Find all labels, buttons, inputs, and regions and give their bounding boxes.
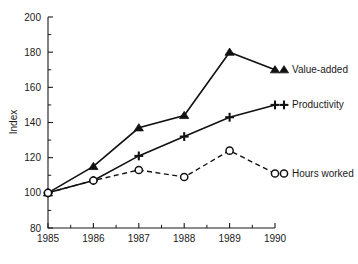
chart-page: 80100120140160180200 1985198619871988198… [0, 0, 358, 264]
x-tick-label: 1985 [37, 233, 60, 244]
legend-marker-triangle [279, 66, 288, 73]
x-tick-label: 1986 [82, 233, 105, 244]
marker-circle [90, 177, 97, 184]
y-tick-label: 180 [24, 47, 41, 58]
y-axis-tick-labels: 80100120140160180200 [24, 12, 41, 234]
x-tick-label: 1989 [218, 233, 241, 244]
x-axis-tick-labels: 198519861987198819891990 [37, 233, 287, 244]
series-line-0 [48, 52, 275, 193]
y-tick-label: 80 [30, 223, 42, 234]
y-tick-label: 200 [24, 12, 41, 23]
y-tick-label: 160 [24, 82, 41, 93]
marker-circle [226, 147, 233, 154]
x-tick-label: 1987 [128, 233, 151, 244]
legend-label: Value-added [292, 64, 348, 75]
marker-plus [134, 152, 143, 161]
series-line-1 [48, 105, 275, 193]
marker-circle [271, 170, 278, 177]
chart-axes [48, 17, 275, 228]
marker-circle [44, 189, 51, 196]
marker-circle [181, 173, 188, 180]
legend-label: Hours worked [292, 168, 354, 179]
marker-plus [180, 132, 189, 141]
legend-marker-circle [280, 170, 287, 177]
y-tick-label: 120 [24, 152, 41, 163]
x-tick-label: 1990 [264, 233, 287, 244]
marker-plus [225, 113, 234, 122]
legend-label: Productivity [292, 99, 344, 110]
marker-circle [135, 166, 142, 173]
marker-triangle [225, 48, 234, 55]
x-tick-label: 1988 [173, 233, 196, 244]
series-lines [48, 52, 275, 193]
chart-legend: Value-addedProductivityHours worked [279, 64, 353, 179]
marker-triangle [180, 111, 189, 118]
x-axis-ticks [48, 223, 275, 228]
y-tick-label: 140 [24, 117, 41, 128]
y-tick-label: 100 [24, 187, 41, 198]
legend-marker-plus [280, 101, 289, 110]
marker-plus [271, 101, 280, 110]
series-line-2 [48, 151, 275, 193]
line-chart: 80100120140160180200 1985198619871988198… [0, 0, 358, 264]
y-axis-title: Index [8, 110, 19, 134]
